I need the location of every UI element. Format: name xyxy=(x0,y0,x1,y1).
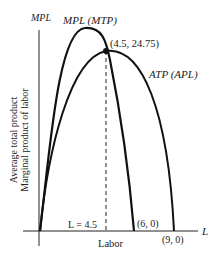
production-chart: MPL MPL (MTP) (4.5, 24.75) ATP (APL) L =… xyxy=(0,0,214,259)
mpl-curve-label: MPL (MTP) xyxy=(62,14,117,27)
mpl-zero-label: (6, 0) xyxy=(137,218,159,230)
atp-curve-label: ATP (APL) xyxy=(148,68,198,81)
y-axis-symbol: MPL xyxy=(30,12,51,23)
l-value-label: L = 4.5 xyxy=(68,219,97,230)
y-axis-title-line2: Marginal product of labor xyxy=(19,88,30,192)
y-axis-title-line1: Average total product xyxy=(8,97,19,184)
intersection-label: (4.5, 24.75) xyxy=(110,38,159,50)
x-axis-symbol: L xyxy=(201,225,208,237)
x-axis-title: Labor xyxy=(98,238,124,249)
atp-zero-label: (9, 0) xyxy=(162,234,184,246)
intersection-point xyxy=(103,48,109,54)
mpl-curve xyxy=(40,28,134,231)
